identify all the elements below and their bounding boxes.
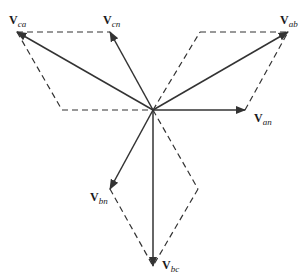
dashed-bc-right-lower [153,189,198,266]
label-van-sub: an [263,117,272,127]
label-vcn: Vcn [103,14,120,26]
arrow-vca [17,32,153,110]
dashed-bc-right-upper [153,110,198,189]
dashed-bc-left-lower [110,189,153,266]
label-vbc: Vbc [162,259,179,271]
label-vcn-main: V [103,13,112,27]
phasor-arrows [17,32,288,266]
dashed-ab-left [153,32,200,110]
arrow-vbn [110,110,153,189]
label-vbc-main: V [162,258,171,272]
label-vca: Vca [9,14,26,26]
phasor-diagram [0,0,303,280]
label-vca-main: V [9,13,18,27]
dashed-ca-left [17,32,62,110]
label-vcn-sub: cn [112,19,121,29]
label-vca-sub: ca [18,19,27,29]
label-vab-sub: ab [289,19,298,29]
label-vbn: Vbn [90,191,108,203]
label-vbc-sub: bc [171,264,180,274]
label-van: Van [254,112,272,124]
arrow-vab [153,32,288,110]
label-vbn-sub: bn [99,196,108,206]
label-van-main: V [254,111,263,125]
label-vab: Vab [280,14,298,26]
label-vab-main: V [280,13,289,27]
label-vbn-main: V [90,190,99,204]
